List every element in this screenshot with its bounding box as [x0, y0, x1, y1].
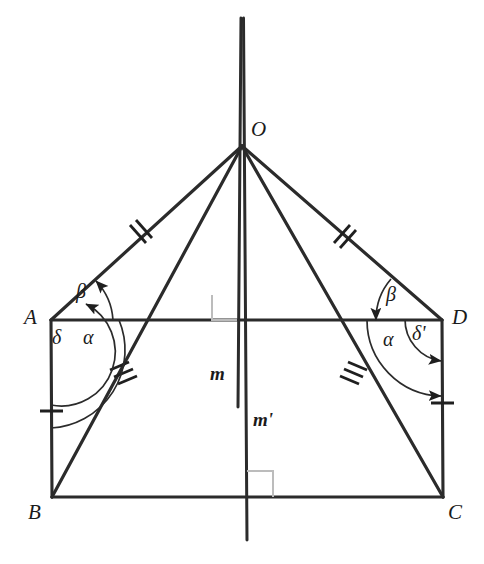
geometry-figure: A D B C O m m' β α δ β α δ': [0, 0, 484, 564]
tick-marks-OC: [340, 362, 367, 384]
axis-label-m-prime: m': [253, 409, 273, 431]
angle-arc-beta-left: [96, 281, 113, 320]
point-label-B: B: [28, 500, 41, 525]
right-angle-marker-AD: [212, 295, 237, 320]
figure-canvas: [0, 0, 484, 564]
angle-label-delta-left: δ: [52, 326, 61, 349]
angle-label-beta-right: β: [386, 283, 396, 306]
right-angle-marker-BC: [247, 471, 273, 497]
point-label-A: A: [24, 305, 37, 330]
axis-line-m: [238, 18, 241, 407]
angle-label-delta-right: δ': [412, 322, 426, 345]
angle-label-beta-left: β: [76, 280, 86, 303]
angle-label-alpha-right: α: [383, 328, 394, 351]
point-label-C: C: [448, 500, 462, 525]
axis-label-m: m: [210, 363, 225, 385]
segment-DC: [442, 320, 443, 497]
point-label-D: D: [452, 305, 467, 330]
angle-label-alpha-left: α: [83, 326, 94, 349]
axis-line-m-prime: [244, 18, 248, 540]
point-label-O: O: [251, 117, 266, 142]
